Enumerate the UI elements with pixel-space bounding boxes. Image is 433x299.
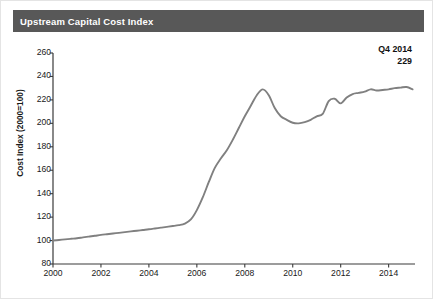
annotation-value: 229 — [378, 56, 412, 68]
page-title: Upstream Capital Cost Index — [13, 16, 153, 27]
chart-title-bar: Upstream Capital Cost Index — [13, 10, 424, 32]
chart-figure: Upstream Capital Cost Index Cost Index (… — [0, 0, 433, 299]
plot-area: Cost Index (2000=100) 260240220200180160… — [1, 32, 433, 299]
data-series-line — [53, 87, 413, 241]
axis-lines — [53, 53, 415, 264]
annotation-period: Q4 2014 — [378, 44, 412, 56]
chart-canvas — [1, 32, 433, 299]
endpoint-annotation: Q4 2014 229 — [378, 44, 412, 68]
